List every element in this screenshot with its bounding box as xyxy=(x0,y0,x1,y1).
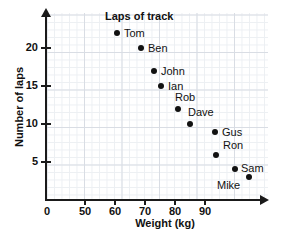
data-point-mike xyxy=(246,174,252,180)
data-point-sam xyxy=(232,166,238,172)
x-tick-label: 90 xyxy=(185,206,225,217)
y-tick-mark xyxy=(41,123,51,125)
data-point-label-ben: Ben xyxy=(148,43,168,54)
x-axis-arrow-icon xyxy=(260,195,269,205)
scatter-chart: Laps of track Weight (kg) Number of laps… xyxy=(0,0,288,232)
data-point-label-john: John xyxy=(161,66,185,77)
x-axis-title: Weight (kg) xyxy=(0,217,288,229)
y-tick-label: 5 xyxy=(0,156,38,167)
data-point-label-gus: Gus xyxy=(222,127,242,138)
y-axis-arrow-icon xyxy=(41,8,51,17)
data-point-tom xyxy=(114,30,120,36)
y-axis-title: Number of laps xyxy=(13,42,25,172)
y-tick-mark xyxy=(41,161,51,163)
y-tick-label: 20 xyxy=(0,42,38,53)
chart-title: Laps of track xyxy=(105,10,173,22)
data-point-john xyxy=(151,68,157,74)
data-point-dave xyxy=(187,121,193,127)
y-tick-label: 15 xyxy=(0,80,38,91)
x-axis-line xyxy=(45,199,262,201)
data-point-label-rob: Rob xyxy=(175,92,195,103)
data-point-label-mike: Mike xyxy=(217,180,240,191)
data-point-label-sam: Sam xyxy=(241,163,264,174)
data-point-gus xyxy=(212,129,218,135)
y-tick-label: 10 xyxy=(0,118,38,129)
x-tick-label: 0 xyxy=(27,206,67,217)
y-tick-mark xyxy=(41,47,51,49)
data-point-ian xyxy=(158,83,164,89)
data-point-label-dave: Dave xyxy=(188,107,214,118)
data-point-ben xyxy=(138,45,144,51)
y-tick-mark xyxy=(41,85,51,87)
data-point-label-tom: Tom xyxy=(124,28,145,39)
data-point-rob xyxy=(175,106,181,112)
data-point-ron xyxy=(213,152,219,158)
y-axis-line xyxy=(45,16,47,201)
data-point-label-ron: Ron xyxy=(223,140,243,151)
